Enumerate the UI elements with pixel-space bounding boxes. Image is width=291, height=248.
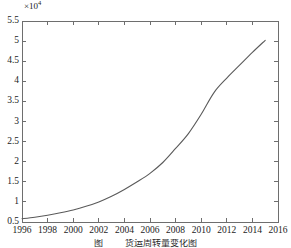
exponent-mantissa: ×10 bbox=[24, 1, 38, 11]
caption-text: 货运周转量变化图 bbox=[125, 239, 197, 248]
y-axis-exponent-label: ×104 bbox=[24, 2, 41, 11]
caption-label: 图 bbox=[94, 239, 103, 248]
ytick-label-5: 5 bbox=[0, 36, 19, 46]
line-chart-plot bbox=[0, 0, 291, 248]
ytick-label-1.5: 1.5 bbox=[0, 177, 19, 187]
ytick-label-3.5: 3.5 bbox=[0, 96, 19, 106]
xtick-label-2016: 2016 bbox=[263, 226, 291, 236]
ytick-label-3: 3 bbox=[0, 117, 19, 127]
ytick-label-2: 2 bbox=[0, 157, 19, 167]
plot-frame bbox=[22, 21, 278, 222]
ytick-label-4: 4 bbox=[0, 76, 19, 86]
ytick-label-1: 1 bbox=[0, 197, 19, 207]
exponent-power: 4 bbox=[38, 0, 41, 6]
ytick-label-5.5: 5.5 bbox=[0, 16, 19, 26]
ytick-label-4.5: 4.5 bbox=[0, 56, 19, 66]
figure-container: ×104 5.5 5 4.5 4 3.5 3 2.5 2 1.5 1 0.5 1… bbox=[0, 0, 291, 248]
ytick-label-2.5: 2.5 bbox=[0, 137, 19, 147]
figure-caption: 图货运周转量变化图 bbox=[0, 239, 291, 248]
